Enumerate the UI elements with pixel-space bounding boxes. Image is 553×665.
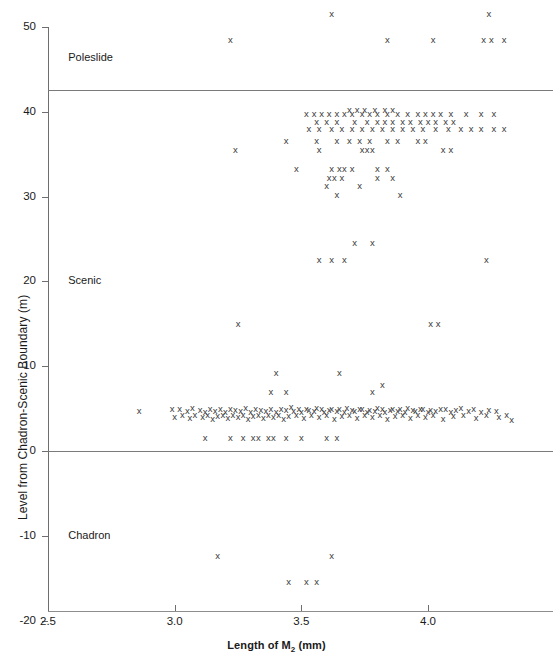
data-point: x [491, 124, 496, 134]
data-point: x [241, 410, 246, 420]
data-point: x [266, 410, 271, 420]
data-point: x [360, 124, 365, 134]
data-point: x [314, 578, 319, 588]
data-point: x [502, 124, 507, 134]
data-point: x [497, 412, 502, 422]
data-point: x [261, 413, 266, 423]
data-point: x [484, 255, 489, 265]
y-tick-0 [42, 451, 48, 452]
data-point: x [251, 411, 256, 421]
data-point: x [241, 434, 246, 444]
data-point: x [215, 551, 220, 561]
data-point: x [294, 410, 299, 420]
data-point: x [329, 404, 334, 414]
data-point: x [271, 412, 276, 422]
data-point: x [317, 412, 322, 422]
data-point: x [284, 136, 289, 146]
data-point: x [441, 414, 446, 424]
data-point: x [421, 124, 426, 134]
data-point: x [426, 117, 431, 127]
data-point: x [479, 124, 484, 134]
data-point: x [236, 412, 241, 422]
data-point: x [350, 165, 355, 175]
data-point: x [180, 411, 185, 421]
data-point: x [286, 578, 291, 588]
data-point: x [400, 410, 405, 420]
data-point: x [375, 173, 380, 183]
data-point: x [479, 110, 484, 120]
data-point: x [337, 368, 342, 378]
data-point: x [317, 145, 322, 155]
data-point: x [203, 434, 208, 444]
x-tick-4.0 [428, 605, 429, 611]
data-point: x [377, 411, 382, 421]
data-point: x [469, 124, 474, 134]
data-point: x [266, 434, 271, 444]
data-point: x [415, 136, 420, 146]
data-point: x [339, 173, 344, 183]
data-point: x [355, 413, 360, 423]
data-point: x [281, 414, 286, 424]
data-point: x [479, 407, 484, 417]
data-point: x [509, 416, 514, 426]
data-point: x [370, 412, 375, 422]
y-tick-label-40: 40 [6, 106, 36, 117]
data-point: x [228, 35, 233, 45]
data-point: x [332, 414, 337, 424]
data-point: x [423, 136, 428, 146]
data-point: x [385, 414, 390, 424]
data-point: x [294, 165, 299, 175]
data-point: x [489, 35, 494, 45]
x-tick-2.5 [48, 605, 49, 611]
data-point: x [380, 124, 385, 134]
data-point: x [324, 182, 329, 192]
data-point: x [210, 414, 215, 424]
data-point: x [410, 124, 415, 134]
data-point: x [398, 190, 403, 200]
y-tick-20 [42, 281, 48, 282]
scatter-plot-figure: 50403020100-10-202.53.03.54.0PoleslideSc… [0, 0, 553, 665]
data-point: x [365, 117, 370, 127]
y-tick-40 [42, 112, 48, 113]
data-point: x [390, 173, 395, 183]
y-tick-10 [42, 366, 48, 367]
y-tick-50 [42, 27, 48, 28]
formation-label-poleslide: Poleslide [68, 51, 113, 63]
data-point: x [284, 434, 289, 444]
data-point: x [269, 388, 274, 398]
y-tick-label-50: 50 [6, 21, 36, 32]
formation-label-chadron: Chadron [68, 529, 110, 541]
data-point: x [347, 136, 352, 146]
data-point: x [481, 35, 486, 45]
data-point: x [436, 319, 441, 329]
data-point: x [423, 412, 428, 422]
data-point: x [502, 35, 507, 45]
y-tick-30 [42, 197, 48, 198]
data-point: x [459, 124, 464, 134]
data-point: x [393, 411, 398, 421]
data-point: x [446, 124, 451, 134]
data-point: x [350, 124, 355, 134]
data-point: x [317, 124, 322, 134]
data-point: x [362, 410, 367, 420]
data-point: x [334, 136, 339, 146]
y-tick-label-30: 30 [6, 191, 36, 202]
data-point: x [438, 404, 443, 414]
x-tick-3.0 [175, 605, 176, 611]
x-tick-label-3.0: 3.0 [155, 615, 195, 627]
data-point: x [370, 238, 375, 248]
data-point: x [256, 434, 261, 444]
x-axis-title: Length of M2 (mm) [0, 639, 553, 654]
data-point: x [491, 110, 496, 120]
data-point: x [334, 117, 339, 127]
data-point: x [339, 124, 344, 134]
data-point: x [405, 403, 410, 413]
data-point: x [274, 368, 279, 378]
data-point: x [464, 110, 469, 120]
data-point: x [451, 411, 456, 421]
formation-label-scenic: Scenic [68, 274, 101, 286]
data-point: x [193, 410, 198, 420]
data-point: x [390, 105, 395, 115]
data-point: x [200, 412, 205, 422]
data-point: x [370, 388, 375, 398]
